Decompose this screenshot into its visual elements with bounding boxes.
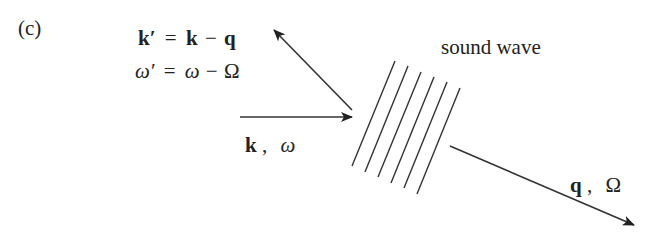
omega-symbol: ω	[185, 59, 200, 83]
Omega-symbol: Ω	[224, 59, 240, 83]
minus-sign: −	[206, 59, 218, 83]
panel-label: (c)	[18, 16, 41, 40]
sound-wave-wavefronts	[352, 61, 460, 194]
sound-wave-label: sound wave	[441, 35, 541, 59]
omega-prime-symbol: ω′	[135, 59, 155, 83]
comma: ,	[262, 133, 267, 157]
light-scattering-diagram: (c) k′ = k − q ω′ = ω − Ω k , ω sound wa…	[0, 0, 645, 237]
k-symbol: k	[186, 26, 198, 50]
k-prime-symbol: k′	[138, 26, 156, 50]
omega-symbol: ω	[280, 133, 295, 157]
comma: ,	[587, 173, 592, 197]
equation-wavevector: k′ = k − q	[138, 26, 236, 50]
incident-label: k , ω	[245, 133, 295, 157]
Omega-symbol: Ω	[605, 173, 621, 197]
minus-sign: −	[205, 26, 217, 50]
k-symbol: k	[245, 133, 257, 157]
equals-sign: =	[165, 26, 177, 50]
equation-frequency: ω′ = ω − Ω	[135, 59, 240, 83]
q-symbol: q	[570, 173, 582, 197]
q-symbol: q	[224, 26, 236, 50]
phonon-label: q , Ω	[570, 173, 621, 197]
scattered-light-arrow	[274, 30, 352, 110]
equals-sign: =	[164, 59, 176, 83]
